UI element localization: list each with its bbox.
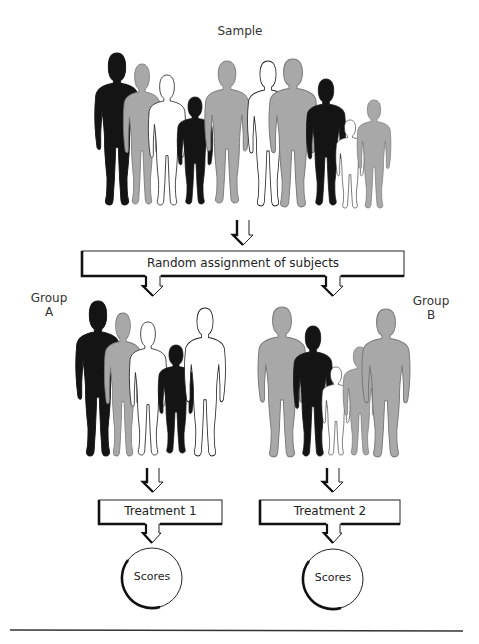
scores-b-label: Scores: [303, 571, 363, 584]
bottom-rule: [10, 630, 463, 631]
down-arrow-icon: [143, 468, 163, 492]
sample-group: [95, 53, 391, 208]
sample-label: Sample: [190, 24, 290, 38]
experiment-diagram: [0, 0, 479, 644]
group-b-people: [258, 307, 410, 457]
down-arrow-icon: [233, 220, 253, 245]
group-b-label-line1: Group: [406, 294, 456, 308]
treatment-1-label: Treatment 1: [99, 504, 222, 518]
random-assignment-label: Random assignment of subjects: [82, 256, 404, 270]
group-b-label: Group B: [406, 294, 456, 322]
group-a-label-line1: Group: [24, 291, 74, 305]
group-a-label: Group A: [24, 291, 74, 319]
group-a-people: [76, 301, 226, 456]
scores-a-label: Scores: [122, 570, 182, 583]
treatment-2-label: Treatment 2: [260, 504, 400, 518]
group-b-label-line2: B: [406, 308, 456, 322]
group-a-label-line2: A: [24, 305, 74, 319]
down-arrow-icon: [323, 468, 343, 492]
